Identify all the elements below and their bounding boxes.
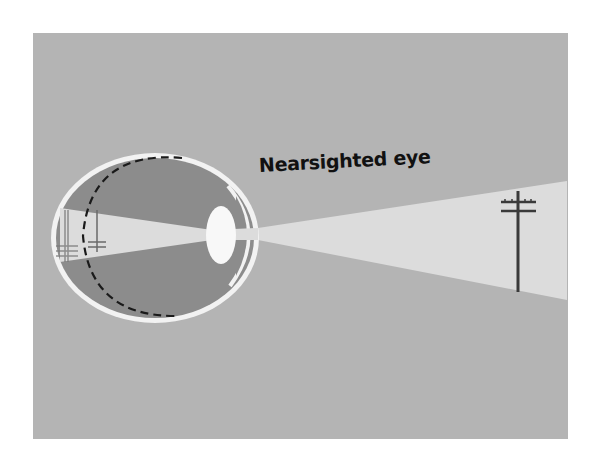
- nearsighted-eye-illustration: [0, 0, 601, 472]
- lens: [206, 206, 236, 264]
- light-cone-outside: [258, 181, 567, 300]
